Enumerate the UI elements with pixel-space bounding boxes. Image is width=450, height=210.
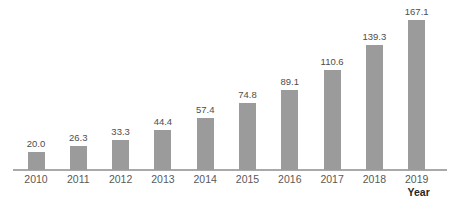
bar-value-label: 74.8 (226, 89, 270, 101)
x-tick-label: 2017 (310, 173, 354, 186)
bar-chart: Year 20.0 2010 26.3 2011 33.3 2012 44.4 … (0, 0, 450, 210)
x-tick-label: 2011 (56, 173, 100, 186)
x-axis-title: Year (389, 186, 449, 198)
x-tick-label: 2012 (99, 173, 143, 186)
bar-value-label: 44.4 (141, 116, 185, 128)
bar (324, 70, 341, 170)
bar-value-label: 167.1 (395, 6, 439, 18)
plot-area: Year 20.0 2010 26.3 2011 33.3 2012 44.4 … (0, 0, 450, 210)
bar (281, 90, 298, 170)
x-tick-label: 2010 (14, 173, 58, 186)
bar (70, 146, 87, 170)
x-tick-label: 2015 (226, 173, 270, 186)
x-tick-label: 2014 (183, 173, 227, 186)
bar (366, 45, 383, 170)
x-tick-label: 2019 (395, 173, 439, 186)
bar (112, 140, 129, 170)
x-tick-label: 2018 (352, 173, 396, 186)
bar-value-label: 20.0 (14, 138, 58, 150)
bar-value-label: 33.3 (99, 126, 143, 138)
bar (408, 20, 425, 170)
x-tick-label: 2013 (141, 173, 185, 186)
bar-value-label: 110.6 (310, 56, 354, 68)
bar (154, 130, 171, 170)
bar (239, 103, 256, 170)
bar-value-label: 139.3 (352, 31, 396, 43)
x-tick-label: 2016 (268, 173, 312, 186)
bar-value-label: 57.4 (183, 104, 227, 116)
bar-value-label: 89.1 (268, 76, 312, 88)
bar (197, 118, 214, 170)
bar-value-label: 26.3 (56, 132, 100, 144)
bar (28, 152, 45, 170)
